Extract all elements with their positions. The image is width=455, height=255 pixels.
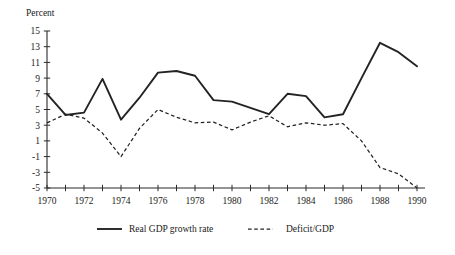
x-tick-label: 1976 <box>149 196 168 206</box>
x-tick-label: 1980 <box>223 196 242 206</box>
x-tick-label: 1986 <box>334 196 353 206</box>
chart-figure: Percent 15131197531-1-3-5 19701972197419… <box>0 0 455 255</box>
y-tick-label: 5 <box>35 105 40 115</box>
y-tick-label: 11 <box>31 58 40 68</box>
y-tick-label: 7 <box>35 89 40 99</box>
x-tick-label: 1988 <box>371 196 390 206</box>
x-tick-label: 1982 <box>260 196 279 206</box>
series-line-deficit-gdp <box>47 110 417 189</box>
y-tick-label: 15 <box>31 26 41 36</box>
chart-legend: Real GDP growth rateDeficit/GDP <box>97 224 334 234</box>
y-tick-label: 1 <box>35 136 40 146</box>
x-axis-tick-labels: 1970197219741976197819801982198419861988… <box>38 196 427 206</box>
x-tick-label: 1970 <box>38 196 57 206</box>
x-tick-label: 1974 <box>112 196 131 206</box>
legend-label: Deficit/GDP <box>286 224 334 234</box>
x-tick-label: 1978 <box>186 196 205 206</box>
series-line-real-gdp-growth-rate <box>47 43 417 120</box>
legend-label: Real GDP growth rate <box>129 224 213 234</box>
x-tick-label: 1984 <box>297 196 316 206</box>
y-tick-label: -5 <box>32 183 40 193</box>
y-tick-label: -1 <box>32 152 40 162</box>
line-chart-plot: 15131197531-1-3-5 1970197219741976197819… <box>0 0 455 255</box>
y-tick-label: 9 <box>35 74 40 84</box>
x-tick-label: 1990 <box>408 196 427 206</box>
y-tick-label: 13 <box>31 42 41 52</box>
x-tick-label: 1972 <box>75 196 94 206</box>
y-axis-tick-labels: 15131197531-1-3-5 <box>31 26 41 193</box>
y-tick-label: 3 <box>35 121 40 131</box>
y-tick-label: -3 <box>32 168 40 178</box>
